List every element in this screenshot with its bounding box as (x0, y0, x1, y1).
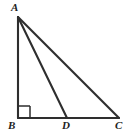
vertex-label-c: C (115, 120, 122, 131)
vertex-label-d: D (62, 120, 70, 131)
segment-ad (18, 17, 67, 118)
right-angle-marker-b (18, 106, 30, 118)
geometry-figure: A B D C (0, 0, 135, 138)
vertex-label-b: B (8, 120, 15, 131)
vertex-label-a: A (11, 2, 18, 13)
segment-ac (18, 17, 119, 118)
figure-canvas (0, 0, 135, 138)
